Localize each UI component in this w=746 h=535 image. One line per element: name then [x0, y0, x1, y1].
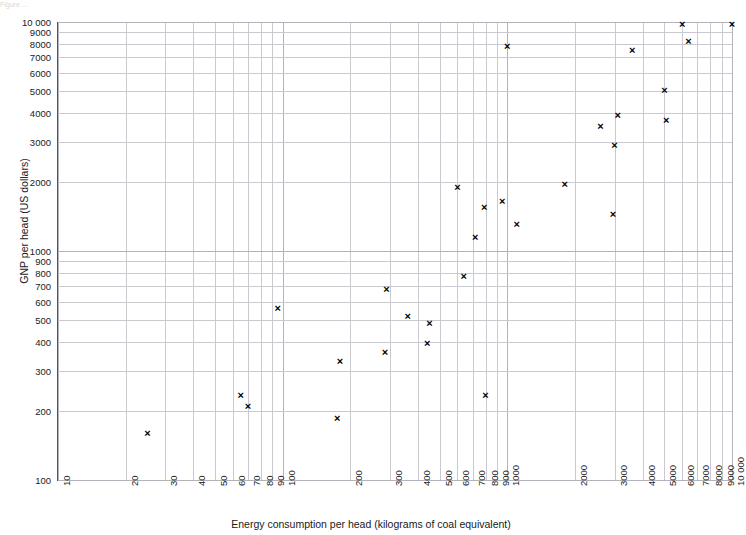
x-tick-label: 400: [421, 470, 432, 486]
x-tick-label: 40: [196, 475, 207, 486]
x-tick-label: 1000: [510, 465, 521, 486]
x-axis-title: Energy consumption per head (kilograms o…: [0, 518, 742, 530]
x-tick-label: 300: [393, 470, 404, 486]
x-tick-label: 10: [61, 475, 72, 486]
x-tick-label: 80: [264, 475, 275, 486]
x-tick-label: 3000: [618, 465, 629, 486]
x-tick-label: 4000: [646, 465, 657, 486]
x-tick-label: 7000: [700, 465, 711, 486]
x-tick-label: 10 000: [735, 457, 746, 486]
x-tick-label: 200: [353, 470, 364, 486]
x-tick-label: 5000: [667, 465, 678, 486]
x-tick-label: 30: [168, 475, 179, 486]
x-tick-label: 60: [236, 475, 247, 486]
x-tick-label: 2000: [578, 465, 589, 486]
x-tick-label: 70: [251, 475, 262, 486]
x-tick-label: 6000: [685, 465, 696, 486]
x-tick-label: 90: [275, 475, 286, 486]
x-tick-label: 500: [443, 470, 454, 486]
x-tick-label: 600: [460, 470, 471, 486]
x-tick-label: 800: [489, 470, 500, 486]
x-tick-label: 50: [218, 475, 229, 486]
x-tick-label: 8000: [713, 465, 724, 486]
x-tick-label: 20: [129, 475, 140, 486]
x-tick-label: 700: [476, 470, 487, 486]
x-tick-label: 100: [286, 470, 297, 486]
y-axis-title: GNP per head (US dollars): [18, 101, 30, 341]
